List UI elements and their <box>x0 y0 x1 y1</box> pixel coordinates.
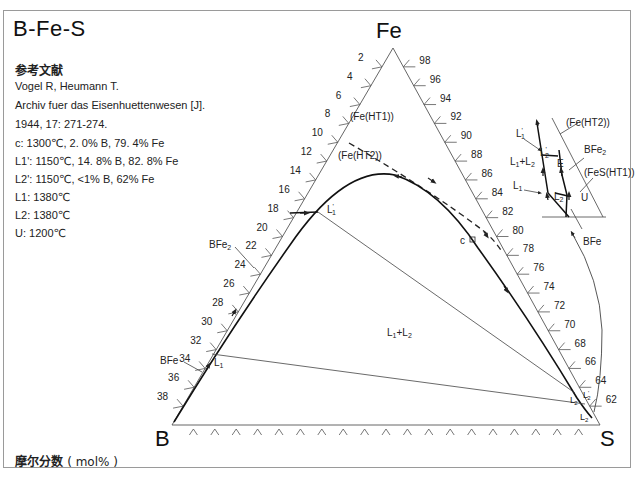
tick-mark <box>414 79 420 86</box>
tick-mark <box>361 429 365 435</box>
miscibility-gap-curve <box>174 174 592 422</box>
tick-mark <box>177 399 183 406</box>
tick-mark <box>232 429 236 435</box>
tick-label: 24 <box>234 259 246 270</box>
tick-mark <box>254 267 260 274</box>
tick-label: 20 <box>257 222 269 233</box>
vertex-s: S <box>600 426 615 451</box>
arrow-dashed <box>428 178 434 182</box>
tick-mark <box>275 429 279 435</box>
tick-mark <box>507 248 513 255</box>
tick-label: 78 <box>523 243 535 254</box>
tick-mark <box>279 429 283 435</box>
tick-mark <box>386 429 390 435</box>
tick-mark <box>343 429 347 435</box>
arrow-top <box>396 176 402 177</box>
inset-diagram: (Fe(HT2)) BFe2 (FeS(HT1)) L'1 L'2 E L1+L… <box>510 117 635 247</box>
inset-label-l1: L1 <box>513 180 523 192</box>
tick-label: 90 <box>461 130 473 141</box>
tick-label: 96 <box>430 74 442 85</box>
tick-mark <box>300 429 304 435</box>
label-bfe2: BFe2 <box>209 239 231 251</box>
tick-label: 26 <box>223 278 235 289</box>
tick-mark <box>455 154 461 161</box>
tick-label: 64 <box>595 375 607 386</box>
inset-label-l2-prime: L'2 <box>540 146 549 159</box>
ternary-diagram: 2468101214161820222426283032343638989694… <box>0 0 637 481</box>
tick-mark <box>232 305 238 312</box>
tick-mark <box>557 429 561 435</box>
tick-label: 72 <box>554 300 566 311</box>
label-l2-prime-upper: L'2 <box>583 390 591 401</box>
inset-label-u: U <box>581 192 588 203</box>
tick-mark <box>403 429 407 435</box>
tick-label: 36 <box>168 372 180 383</box>
tick-mark <box>211 429 215 435</box>
inset-label-e: E <box>557 158 564 169</box>
tick-mark <box>548 324 554 331</box>
tick-label: 30 <box>201 316 213 327</box>
tick-mark <box>590 399 596 406</box>
tick-mark <box>376 60 382 67</box>
tick-label: 8 <box>325 108 331 119</box>
tick-mark <box>429 429 433 435</box>
tick-mark <box>528 286 534 293</box>
tick-mark <box>189 429 193 435</box>
label-bfe: BFe <box>160 355 179 366</box>
inset-label-l2: L2 <box>554 191 564 203</box>
vertex-fe: Fe <box>376 18 402 43</box>
tie-line-l1-l2 <box>212 354 585 404</box>
tick-mark <box>517 267 523 274</box>
tick-mark <box>536 429 540 435</box>
tick-label: 92 <box>450 111 462 122</box>
tick-mark <box>288 211 294 218</box>
tick-label: 2 <box>358 52 364 63</box>
tick-label: 14 <box>290 165 302 176</box>
vertex-b: B <box>155 426 170 451</box>
tick-label: 84 <box>492 187 504 198</box>
bfe-leader <box>184 362 202 372</box>
tick-mark <box>188 380 194 387</box>
tick-mark <box>450 429 454 435</box>
tick-label: 6 <box>336 90 342 101</box>
tick-label: 70 <box>564 319 576 330</box>
label-l1: L1 <box>214 357 224 369</box>
tick-mark <box>510 429 514 435</box>
tick-mark <box>299 192 305 199</box>
arrow-left-branch-2 <box>232 311 235 316</box>
tick-mark <box>559 343 565 350</box>
tick-mark <box>382 429 386 435</box>
tick-mark <box>339 429 343 435</box>
tick-mark <box>343 116 349 123</box>
label-l1l2-main: L1+L2 <box>387 327 412 339</box>
tick-mark <box>332 135 338 142</box>
tick-label: 62 <box>606 394 618 405</box>
tick-mark <box>532 429 536 435</box>
tick-mark <box>296 429 300 435</box>
tick-mark <box>575 429 579 435</box>
inset-label-fes-ht1: (FeS(HT1)) <box>584 167 635 178</box>
tick-mark <box>472 429 476 435</box>
tick-mark <box>258 429 262 435</box>
inset-label-fe-ht2: (Fe(HT2)) <box>566 117 610 128</box>
tick-label: 22 <box>245 240 257 251</box>
tick-mark <box>277 230 283 237</box>
tick-label: 82 <box>502 206 514 217</box>
tick-mark <box>318 429 322 435</box>
tick-label: 68 <box>575 338 587 349</box>
tick-mark <box>579 380 585 387</box>
inset-label-l1-prime: L'1 <box>516 127 525 140</box>
tick-label: 88 <box>471 149 483 160</box>
tick-label: 16 <box>279 184 291 195</box>
tick-mark <box>424 98 430 105</box>
tick-mark <box>403 60 409 67</box>
inset-label-l1l2: L1+L2 <box>510 156 535 168</box>
triangle-outline <box>172 48 600 425</box>
tick-mark <box>476 192 482 199</box>
tick-mark <box>514 429 518 435</box>
tick-mark <box>199 361 205 368</box>
inset-label-bfe: BFe <box>583 236 602 247</box>
label-c: c <box>460 235 465 246</box>
tick-label: 80 <box>513 225 525 236</box>
tick-label: 98 <box>419 55 431 66</box>
